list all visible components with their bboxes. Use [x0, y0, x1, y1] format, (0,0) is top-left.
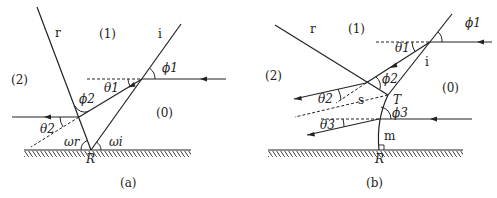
angle-label-phi2-a: ϕ2	[79, 92, 95, 106]
slip-line-s	[295, 95, 388, 117]
angle-arc-theta2-b	[338, 89, 341, 100]
shock-reflection-figure: r (1) i (2) (0) ϕ1 θ1 ϕ2 θ2 ωr ωi R (a)	[0, 0, 497, 198]
region-1-label-b: (1)	[348, 22, 365, 36]
region-0-label-b: (0)	[442, 81, 459, 95]
reflected-shock-b	[275, 25, 388, 95]
panel-a: r (1) i (2) (0) ϕ1 θ1 ϕ2 θ2 ωr ωi R (a)	[11, 7, 226, 190]
angle-label-theta1-a: θ1	[104, 81, 119, 95]
angle-label-theta3-b: θ3	[320, 118, 335, 132]
angle-label-theta1-b: θ1	[395, 41, 410, 55]
point-label-T: T	[393, 93, 402, 107]
ground-hatch-b	[268, 151, 463, 157]
right-angle-mark	[379, 145, 384, 150]
point-label-R-b: R	[374, 152, 384, 166]
angle-label-phi1-a: ϕ1	[162, 61, 178, 75]
caption-a: (a)	[120, 176, 137, 190]
label-i-b: i	[425, 55, 429, 69]
angle-arc-theta2-a	[60, 117, 63, 127]
angle-arc-phi1-b	[438, 32, 442, 42]
label-s-b: s	[358, 93, 364, 107]
angle-label-phi2-b: ϕ2	[382, 72, 398, 86]
region-0-label-a: (0)	[156, 106, 173, 120]
point-label-R-a: R	[85, 152, 95, 166]
angle-arc-omega-i	[97, 142, 102, 150]
label-m-b: m	[384, 129, 396, 143]
caption-b: (b)	[366, 176, 383, 190]
angle-label-theta2-b: θ2	[318, 92, 333, 106]
region-1-label-a: (1)	[99, 27, 116, 41]
angle-arc-theta3-b	[343, 119, 344, 127]
arrow-head-icon	[44, 115, 51, 120]
angle-arc-phi1-a	[150, 69, 155, 80]
angle-label-phi1-b: ϕ1	[465, 16, 481, 30]
arrow-head-icon	[477, 40, 484, 45]
panel-b: r (1) ϕ1 θ1 i (2) (0) ϕ2 θ2 s T ϕ3 θ3 m …	[265, 14, 492, 190]
region-2-label-b: (2)	[265, 69, 282, 83]
angle-arc-phi2-a	[75, 106, 89, 112]
angle-label-omega-r: ωr	[64, 135, 81, 149]
angle-label-theta2-a: θ2	[40, 122, 55, 136]
angle-label-phi3-b: ϕ3	[392, 106, 408, 120]
angle-arc-omega-r	[81, 141, 88, 151]
angle-arc-theta1-a	[128, 79, 130, 86]
arrow-head-icon	[200, 77, 207, 82]
angle-label-omega-i: ωi	[109, 135, 123, 149]
angle-arc-theta1-b	[412, 42, 415, 52]
angle-arc-phi2-b	[376, 77, 380, 89]
label-r-b: r	[310, 22, 316, 36]
arrow-head-icon	[430, 117, 437, 122]
label-r-a: r	[55, 26, 61, 40]
label-i-a: i	[158, 27, 162, 41]
ground-hatch-a	[24, 151, 191, 157]
region-2-label-a: (2)	[11, 73, 28, 87]
